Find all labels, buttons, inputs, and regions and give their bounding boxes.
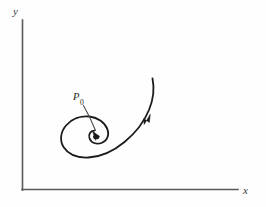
- y-axis-label: y: [13, 6, 18, 17]
- figure-container: y x P0: [0, 0, 266, 207]
- equilibrium-point-label-letter: P: [73, 91, 79, 102]
- x-axis-label: x: [243, 185, 248, 196]
- equilibrium-point-label: P0: [73, 92, 83, 105]
- equilibrium-point-marker: [93, 135, 99, 140]
- spiral-phase-portrait-graphic: [0, 0, 266, 207]
- equilibrium-point-label-subscript: 0: [80, 98, 84, 107]
- axes-group: [22, 20, 238, 190]
